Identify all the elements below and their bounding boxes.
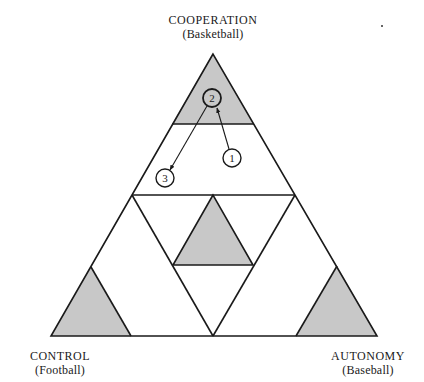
- speck: [381, 25, 383, 27]
- marker-label: 1: [229, 152, 235, 164]
- vertex-label-right: AUTONOMY (Baseball): [315, 349, 421, 377]
- marker-3: 3: [156, 169, 174, 187]
- vertex-title: CONTROL: [30, 349, 90, 363]
- marker-label: 2: [209, 92, 215, 104]
- vertex-label-top: COOPERATION (Basketball): [143, 13, 283, 41]
- shaded-right-triangle: [296, 266, 377, 336]
- shaded-left-triangle: [51, 267, 131, 336]
- vertex-label-left: CONTROL (Football): [10, 349, 110, 377]
- vertex-subtitle: (Basketball): [143, 27, 283, 41]
- shaded-center-triangle: [173, 196, 253, 265]
- marker-1: 1: [223, 149, 241, 167]
- triangle-diagram: 2 1 3: [0, 0, 424, 382]
- vertex-subtitle: (Football): [10, 363, 110, 377]
- vertex-title: COOPERATION: [169, 13, 258, 27]
- vertex-title: AUTONOMY: [331, 349, 405, 363]
- marker-2: 2: [203, 89, 221, 107]
- marker-label: 3: [162, 172, 168, 184]
- vertex-subtitle: (Baseball): [315, 363, 421, 377]
